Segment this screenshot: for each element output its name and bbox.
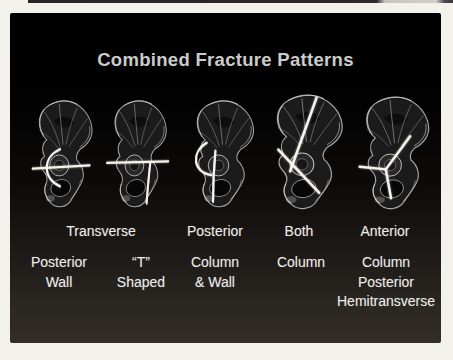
label-anterior: Anterior	[360, 222, 409, 242]
photo-top-edge-artifact	[28, 0, 453, 3]
label-column: Column	[277, 253, 325, 273]
label-column-posterior-hemitransverse: Column Posterior Hemitransverse	[337, 253, 435, 312]
label-transverse: Transverse	[66, 222, 136, 242]
slide-title: Combined Fracture Patterns	[10, 49, 441, 71]
lecture-slide: Combined Fracture Patterns	[10, 13, 441, 343]
illustration-t-shaped	[102, 96, 174, 209]
label-posterior-wall: Posterior Wall	[31, 253, 87, 292]
label-t-shaped: “T” Shaped	[117, 253, 165, 292]
illustration-anterior-column-posterior-hemitransverse	[351, 92, 438, 211]
illustration-transverse-posterior-wall	[26, 96, 100, 209]
label-column-and-wall: Column & Wall	[191, 253, 239, 292]
label-both: Both	[285, 222, 314, 242]
illustration-posterior-column-wall	[183, 96, 262, 209]
illustration-both-column	[261, 90, 352, 211]
label-posterior: Posterior	[187, 222, 243, 242]
